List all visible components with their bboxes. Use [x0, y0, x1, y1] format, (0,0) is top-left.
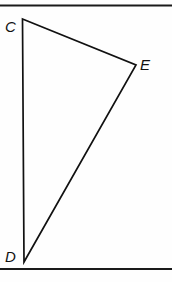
- vertex-label-e: E: [140, 56, 151, 73]
- vertex-label-c: C: [5, 18, 16, 35]
- triangle-cde-outline: [23, 19, 137, 262]
- figure-canvas: C E D: [0, 0, 172, 282]
- geometry-figure: C E D: [0, 0, 172, 282]
- vertex-label-d: D: [5, 248, 16, 265]
